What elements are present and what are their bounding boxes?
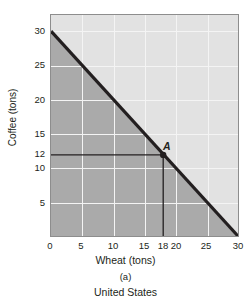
xtick-label-15: 15	[134, 241, 154, 251]
xtick-label-10: 10	[103, 241, 123, 251]
ppf-line	[51, 31, 238, 236]
chart-figure: A 30 25 20 15 12 10 5 0 5 10 15 18 20 25…	[0, 0, 251, 303]
x-axis-title: Wheat (tons)	[0, 254, 251, 266]
plot-svg	[51, 15, 238, 236]
point-a-label: A	[163, 140, 171, 152]
panel-caption: United States	[0, 286, 251, 298]
xtick-label-30: 30	[228, 241, 248, 251]
point-a-marker	[160, 152, 166, 158]
ytick-label-20: 20	[18, 95, 45, 105]
ytick-label-15: 15	[18, 129, 45, 139]
ytick-label-10: 10	[18, 163, 45, 173]
ytick-label-5: 5	[18, 198, 45, 208]
xtick-label-0: 0	[40, 241, 60, 251]
xtick-label-25: 25	[196, 241, 216, 251]
panel-letter: (a)	[0, 271, 251, 282]
plot-area	[50, 14, 239, 237]
y-axis-title: Coffee (tons)	[7, 73, 18, 163]
ytick-label-12: 12	[18, 149, 45, 159]
xtick-label-20: 20	[166, 241, 186, 251]
ytick-label-30: 30	[18, 26, 45, 36]
ytick-label-25: 25	[18, 60, 45, 70]
xtick-label-5: 5	[71, 241, 91, 251]
